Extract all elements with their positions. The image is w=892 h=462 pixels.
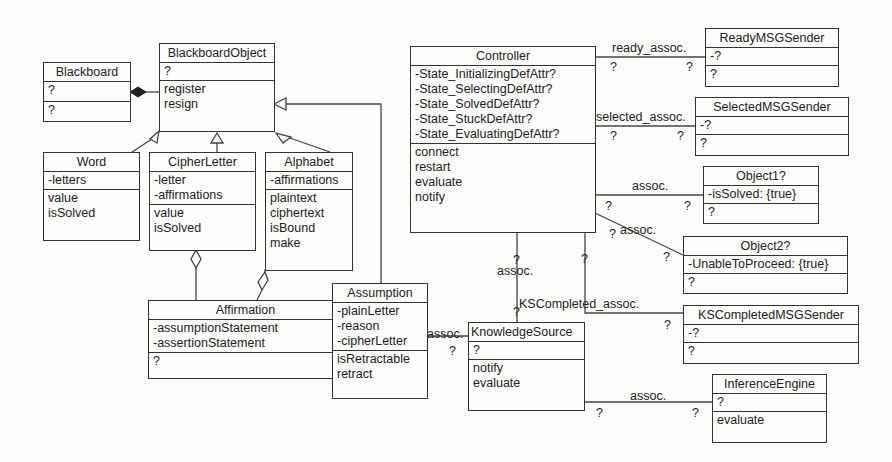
- attributes: -letters: [44, 172, 139, 190]
- multiplicity: ?: [581, 252, 588, 266]
- operation: ?: [688, 275, 843, 290]
- class-name: ReadyMSGSender: [706, 29, 838, 48]
- operation: ?: [710, 67, 834, 82]
- multiplicity: ?: [610, 129, 617, 143]
- assoc-label-object2: assoc.: [620, 223, 656, 237]
- operation: isSolved: [48, 206, 135, 221]
- class-blackboard-object[interactable]: BlackboardObject ? register resign: [159, 43, 275, 132]
- attribute: ?: [48, 83, 126, 98]
- multiplicity: ?: [664, 318, 671, 332]
- operation: register: [164, 82, 270, 97]
- class-name: Affirmation: [149, 301, 342, 320]
- attribute: -State_InitializingDefAttr?: [415, 67, 591, 82]
- class-ks-completed-msg-sender[interactable]: KSCompletedMSGSender -? ?: [683, 305, 859, 364]
- class-object1[interactable]: Object1? -isSolved: {true} ?: [703, 166, 819, 224]
- attribute: -isSolved: {true}: [708, 187, 814, 202]
- attribute: -State_SolvedDefAttr?: [415, 97, 591, 112]
- assoc-label-ks-inference: assoc.: [630, 389, 666, 403]
- multiplicity: ?: [677, 129, 684, 143]
- class-affirmation[interactable]: Affirmation -assumptionStatement -assert…: [148, 300, 343, 379]
- attribute: -plainLetter: [337, 304, 423, 319]
- class-object2[interactable]: Object2? -UnableToProceed: {true} ?: [683, 236, 848, 294]
- class-assumption[interactable]: Assumption -plainLetter -reason -cipherL…: [332, 283, 428, 399]
- operation: isBound: [270, 221, 348, 236]
- operation: evaluate: [717, 413, 822, 428]
- attribute: -letters: [48, 173, 135, 188]
- assoc-label-ks-completed: KSCompleted_assoc.: [519, 297, 639, 311]
- class-blackboard[interactable]: Blackboard ? ?: [43, 62, 131, 122]
- attributes: ?: [713, 394, 826, 412]
- attribute: -State_StuckDefAttr?: [415, 112, 591, 127]
- class-inference-engine[interactable]: InferenceEngine ? evaluate: [712, 374, 827, 443]
- attributes: -isSolved: {true}: [704, 186, 818, 204]
- operation: ?: [708, 205, 814, 220]
- assoc-label-selected: selected_assoc.: [596, 110, 686, 124]
- attribute: ?: [717, 395, 822, 410]
- operations: ?: [44, 102, 130, 119]
- attributes: -letter -affirmations: [150, 172, 255, 205]
- class-name: KSCompletedMSGSender: [684, 306, 858, 325]
- class-name: Controller: [411, 47, 595, 66]
- operation: restart: [415, 160, 591, 175]
- attributes: -UnableToProceed: {true}: [684, 256, 847, 274]
- multiplicity: ?: [596, 406, 603, 420]
- attribute: -assumptionStatement: [153, 321, 338, 336]
- attribute: -?: [688, 326, 854, 341]
- class-name: Object2?: [684, 237, 847, 256]
- attribute: -State_EvaluatingDefAttr?: [415, 127, 591, 142]
- operation: evaluate: [415, 175, 591, 190]
- class-alphabet[interactable]: Alphabet -affirmations plaintext ciphert…: [265, 152, 353, 271]
- multiplicity: ?: [692, 406, 699, 420]
- operation: ?: [688, 344, 854, 359]
- operation: notify: [415, 190, 591, 205]
- multiplicity: ?: [449, 344, 456, 358]
- class-word[interactable]: Word -letters value isSolved: [43, 152, 140, 241]
- attributes: -plainLetter -reason -cipherLetter: [333, 303, 427, 351]
- attributes: -?: [706, 48, 838, 66]
- attributes: -?: [684, 325, 858, 343]
- class-name: Blackboard: [44, 63, 130, 82]
- operations: ?: [696, 135, 848, 152]
- attributes: -affirmations: [266, 172, 352, 190]
- operation: ciphertext: [270, 206, 348, 221]
- operation: value: [48, 191, 135, 206]
- operation: evaluate: [473, 376, 580, 391]
- multiplicity: ?: [605, 199, 612, 213]
- class-controller[interactable]: Controller -State_InitializingDefAttr? -…: [410, 46, 596, 233]
- class-name: KnowledgeSource: [469, 323, 584, 342]
- multiplicity: ?: [663, 250, 670, 264]
- attribute: -UnableToProceed: {true}: [688, 257, 843, 272]
- operation: notify: [473, 361, 580, 376]
- operation: isRetractable: [337, 352, 423, 367]
- operation: connect: [415, 145, 591, 160]
- attribute: -affirmations: [154, 188, 251, 203]
- attributes: ?: [44, 82, 130, 102]
- attribute: ?: [164, 64, 270, 79]
- operations: notify evaluate: [469, 360, 584, 392]
- class-knowledge-source[interactable]: KnowledgeSource ? notify evaluate: [468, 322, 585, 411]
- assoc-label-assumption-ks: assoc.: [427, 327, 463, 341]
- operation: isSolved: [154, 221, 251, 236]
- operations: value isSolved: [44, 190, 139, 222]
- operation: ?: [700, 136, 844, 151]
- multiplicity: ?: [684, 199, 691, 213]
- attributes: -assumptionStatement -assertionStatement: [149, 320, 342, 353]
- attribute: -?: [700, 118, 844, 133]
- operations: connect restart evaluate notify: [411, 144, 595, 206]
- attribute: -?: [710, 49, 834, 64]
- multiplicity: ?: [610, 60, 617, 74]
- assoc-label-object1: assoc.: [632, 179, 668, 193]
- class-selected-msg-sender[interactable]: SelectedMSGSender -? ?: [695, 97, 849, 156]
- class-name: CipherLetter: [150, 153, 255, 172]
- attribute: ?: [473, 343, 580, 358]
- attributes: ?: [160, 63, 274, 81]
- class-ready-msg-sender[interactable]: ReadyMSGSender -? ?: [705, 28, 839, 87]
- operation: make: [270, 236, 348, 251]
- assoc-label-ready: ready_assoc.: [612, 41, 686, 55]
- class-name: BlackboardObject: [160, 44, 274, 63]
- operation: value: [154, 206, 251, 221]
- operations: register resign: [160, 81, 274, 113]
- class-cipher-letter[interactable]: CipherLetter -letter -affirmations value…: [149, 152, 256, 251]
- attribute: -cipherLetter: [337, 334, 423, 349]
- attribute: -assertionStatement: [153, 336, 338, 351]
